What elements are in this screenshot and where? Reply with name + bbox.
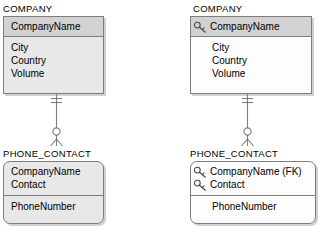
entity-title-company: COMPANY [3, 3, 52, 14]
attribute-label: Country [212, 54, 247, 67]
attribute-row: PhoneNumber [191, 200, 315, 213]
attribute-row: CompanyName [4, 165, 103, 178]
pk-section: CompanyName [191, 17, 311, 37]
attribute-label: Volume [212, 67, 245, 80]
key-icon [193, 166, 208, 178]
attribute-label: PhoneNumber [11, 200, 75, 213]
er-diagram-canvas: COMPANY CompanyName City Country Volume [0, 0, 318, 242]
attribute-row: City [4, 41, 103, 54]
attribute-row: Contact [4, 178, 103, 191]
attribute-row: CompanyName [191, 20, 311, 33]
attribute-section: PhoneNumber [4, 196, 103, 224]
attribute-label: Country [11, 54, 46, 67]
relationship-connector [231, 94, 271, 148]
attribute-label: CompanyName [210, 20, 279, 33]
entity-phone-contact[interactable]: CompanyName (FK) Contact [190, 161, 316, 224]
entity-company[interactable]: CompanyName City Country Volume [3, 16, 104, 94]
attribute-label: CompanyName [11, 20, 80, 33]
relationship-connector [40, 94, 80, 148]
diagram-panel-left: COMPANY CompanyName City Country Volume [0, 0, 159, 242]
attribute-label: Volume [11, 67, 44, 80]
entity-title-phone-contact: PHONE_CONTACT [3, 148, 91, 159]
attribute-row: City [191, 41, 311, 54]
attribute-label: City [212, 41, 229, 54]
attribute-label: Contact [11, 178, 45, 191]
attribute-row: CompanyName (FK) [191, 165, 315, 178]
attribute-row: Country [4, 54, 103, 67]
entity-company[interactable]: CompanyName City Country Volume [190, 16, 312, 94]
attribute-label: Contact [210, 178, 244, 191]
attribute-label: City [11, 41, 28, 54]
attribute-section: City Country Volume [4, 37, 103, 93]
key-icon [193, 179, 208, 191]
attribute-row: Volume [4, 67, 103, 80]
attribute-label: CompanyName (FK) [210, 165, 302, 178]
pk-section: CompanyName [4, 17, 103, 37]
entity-phone-contact[interactable]: CompanyName Contact PhoneNumber [3, 161, 104, 224]
diagram-panel-right: COMPANY CompanyName [159, 0, 318, 242]
attribute-label: PhoneNumber [212, 200, 276, 213]
entity-title-company: COMPANY [193, 3, 242, 14]
attribute-section: City Country Volume [191, 37, 311, 93]
attribute-label: CompanyName [11, 165, 80, 178]
pk-section: CompanyName Contact [4, 162, 103, 196]
entity-title-phone-contact: PHONE_CONTACT [190, 148, 278, 159]
key-icon [193, 21, 208, 33]
attribute-row: Volume [191, 67, 311, 80]
pk-section: CompanyName (FK) Contact [191, 162, 315, 196]
attribute-row: Contact [191, 178, 315, 191]
attribute-row: CompanyName [4, 20, 103, 33]
attribute-row: Country [191, 54, 311, 67]
attribute-row: PhoneNumber [4, 200, 103, 213]
attribute-section: PhoneNumber [191, 196, 315, 224]
